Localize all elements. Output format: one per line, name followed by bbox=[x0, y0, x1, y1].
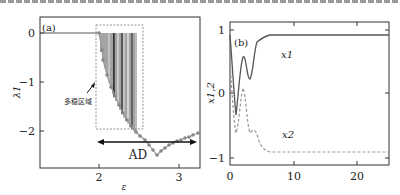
a-xlabel: ε bbox=[122, 182, 127, 192]
b-xtick-0: 0 bbox=[227, 170, 234, 183]
multistable-lines bbox=[101, 33, 136, 133]
b-ylabel: x1,2 bbox=[205, 82, 216, 104]
legend-x2: x2 bbox=[282, 129, 294, 140]
a-ytick-2: −2 bbox=[19, 125, 35, 138]
x2-line bbox=[230, 60, 389, 152]
b-xtick-2: 20 bbox=[350, 170, 364, 183]
b-ytick-0: 1 bbox=[218, 24, 225, 37]
ad-label: AD bbox=[128, 148, 147, 162]
b-ytick-2: −1 bbox=[209, 152, 225, 165]
legend-x1: x1 bbox=[281, 49, 293, 60]
a-ytick-0: 0 bbox=[28, 27, 35, 40]
b-panel-label: (b) bbox=[234, 37, 248, 48]
b-ytick-1: 0 bbox=[218, 87, 225, 100]
a-panel-label: (a) bbox=[42, 22, 56, 33]
x1-line bbox=[230, 35, 389, 115]
figure: 0 −1 −2 2 3 ε λ1 (a) bbox=[0, 0, 400, 195]
a-xtick-0: 2 bbox=[96, 171, 103, 184]
panel-b: 1 0 −1 0 10 20 x1,2 (b) x1 x2 bbox=[205, 22, 389, 183]
b-xtick-1: 10 bbox=[287, 170, 301, 183]
panel-a: 0 −1 −2 2 3 ε λ1 (a) bbox=[11, 17, 200, 192]
multistable-label: 多稳区域 bbox=[64, 97, 92, 106]
a-xtick-1: 3 bbox=[176, 171, 183, 184]
a-ylabel: λ1 bbox=[11, 86, 22, 100]
